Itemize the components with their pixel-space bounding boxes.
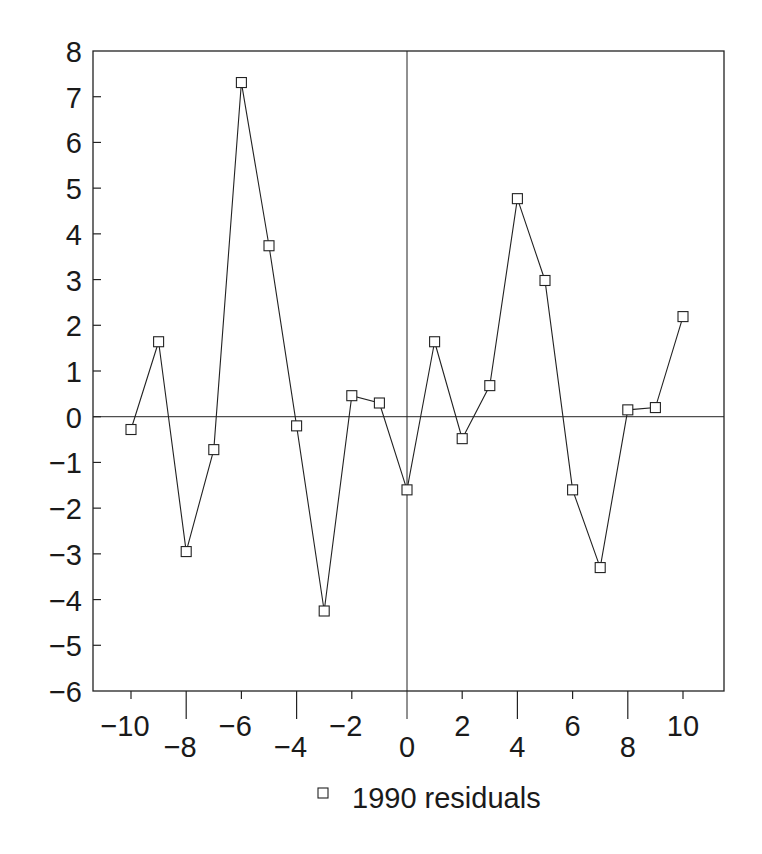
y-tick-label: 1 bbox=[66, 356, 82, 388]
square-marker-icon bbox=[181, 547, 191, 557]
plot-area: 876543210−1−2−3−4−5−6 −10−8−6−4−20246810 bbox=[49, 36, 724, 763]
x-tick-label: −10 bbox=[100, 710, 149, 742]
legend: 1990 residuals bbox=[318, 782, 541, 814]
x-axis: −10−8−6−4−20246810 bbox=[100, 691, 699, 763]
x-tick-label: −8 bbox=[164, 731, 197, 763]
x-tick-label: 6 bbox=[565, 710, 581, 742]
square-marker-icon bbox=[236, 78, 246, 88]
y-tick-label: −6 bbox=[49, 676, 82, 708]
square-marker-icon bbox=[457, 434, 467, 444]
square-marker-icon bbox=[623, 405, 633, 415]
x-tick-label: 2 bbox=[454, 710, 470, 742]
y-tick-label: 0 bbox=[66, 402, 82, 434]
residuals-chart: 876543210−1−2−3−4−5−6 −10−8−6−4−20246810… bbox=[0, 0, 762, 854]
y-tick-label: 5 bbox=[66, 173, 82, 205]
square-marker-icon bbox=[264, 241, 274, 251]
square-marker-icon bbox=[292, 421, 302, 431]
square-marker-icon bbox=[540, 275, 550, 285]
plot-frame bbox=[93, 51, 724, 691]
x-tick-label: −2 bbox=[329, 710, 362, 742]
square-marker-icon bbox=[430, 337, 440, 347]
square-marker-icon bbox=[568, 485, 578, 495]
square-marker-icon bbox=[319, 606, 329, 616]
y-tick-label: −2 bbox=[49, 493, 82, 525]
y-tick-label: −4 bbox=[49, 585, 82, 617]
square-marker-icon bbox=[485, 381, 495, 391]
square-marker-icon bbox=[650, 403, 660, 413]
square-marker-icon bbox=[126, 425, 136, 435]
x-tick-label: −6 bbox=[219, 710, 252, 742]
square-marker-icon bbox=[678, 312, 688, 322]
y-tick-label: 3 bbox=[66, 265, 82, 297]
square-marker-icon bbox=[209, 445, 219, 455]
y-tick-label: −5 bbox=[49, 630, 82, 662]
y-tick-label: 8 bbox=[66, 36, 82, 68]
square-marker-icon bbox=[154, 337, 164, 347]
y-tick-label: −1 bbox=[49, 447, 82, 479]
square-marker-icon bbox=[347, 391, 357, 401]
x-tick-label: 4 bbox=[509, 731, 525, 763]
x-tick-label: −4 bbox=[274, 731, 307, 763]
legend-square-marker-icon bbox=[318, 788, 328, 798]
x-tick-label: 0 bbox=[399, 731, 415, 763]
y-tick-label: 6 bbox=[66, 127, 82, 159]
y-tick-label: 2 bbox=[66, 310, 82, 342]
y-tick-label: 4 bbox=[66, 219, 82, 251]
x-tick-label: 10 bbox=[667, 710, 699, 742]
square-marker-icon bbox=[512, 194, 522, 204]
legend-label: 1990 residuals bbox=[352, 782, 541, 814]
square-marker-icon bbox=[595, 563, 605, 573]
square-marker-icon bbox=[374, 398, 384, 408]
y-tick-label: 7 bbox=[66, 82, 82, 114]
y-tick-label: −3 bbox=[49, 539, 82, 571]
square-marker-icon bbox=[402, 485, 412, 495]
x-tick-label: 8 bbox=[620, 731, 636, 763]
